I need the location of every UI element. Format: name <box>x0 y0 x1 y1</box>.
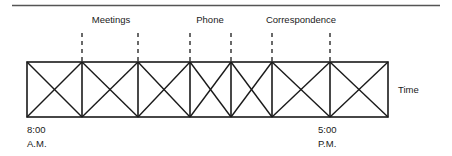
activity-leader-lines <box>82 33 330 62</box>
time-bar-outline <box>27 62 388 117</box>
start-time-hour-label: 8:00 <box>27 124 46 135</box>
end-time-hour-label: 5:00 <box>318 124 337 135</box>
activity-label: Correspondence <box>266 14 336 25</box>
diagram-canvas: MeetingsPhoneCorrespondence Time 8:00 A.… <box>0 0 452 156</box>
activity-label: Phone <box>196 14 223 25</box>
time-axis-label: Time <box>398 84 419 95</box>
start-time-meridiem-label: A.M. <box>27 138 47 149</box>
time-bar-cell-crosses <box>27 62 388 117</box>
time-bar-dividers <box>82 62 330 117</box>
time-block-diagram-figure: MeetingsPhoneCorrespondence Time 8:00 A.… <box>0 0 452 156</box>
activity-labels-group: MeetingsPhoneCorrespondence <box>92 14 336 25</box>
activity-label: Meetings <box>92 14 131 25</box>
end-time-meridiem-label: P.M. <box>318 138 336 149</box>
